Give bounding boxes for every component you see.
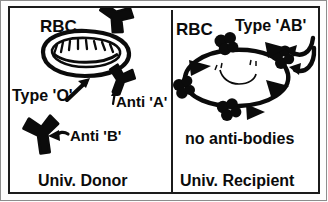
y-shaped-antibody-icon [94, 8, 137, 37]
triangular-spike-antigen-icon [265, 42, 287, 58]
no-antibodies-label: no anti-bodies [185, 131, 294, 147]
triangular-spike-antigen-icon [266, 80, 289, 100]
universal-donor-caption: Univ. Donor [38, 173, 127, 189]
universal-recipient-panel: RBC Type 'AB' no anti-bodies Univ. Recip… [173, 8, 318, 194]
arrow-left-icon [48, 130, 68, 141]
universal-donor-panel: RBC Type 'O' Anti 'A' Anti 'B' Univ. Don… [10, 8, 171, 194]
clover-blob-antigen-icon [173, 76, 195, 99]
antibody-b-label: Anti 'B' [70, 128, 121, 143]
blood-type-label-left: Type 'O' [12, 88, 73, 104]
antibody-a-label: Anti 'A' [116, 94, 167, 109]
triangular-spike-antigen-icon [189, 60, 211, 76]
rbc-label-right: RBC [176, 21, 213, 38]
red-blood-cell-icon [43, 31, 129, 76]
curved-arrow-left-icon [285, 38, 313, 57]
y-shaped-antibody-icon [22, 115, 61, 155]
clover-blob-antigen-icon [215, 32, 239, 55]
clover-blob-antigen-icon [217, 98, 242, 121]
rbc-label-left: RBC [40, 18, 77, 35]
blood-type-label-right: Type 'AB' [235, 18, 306, 34]
blood-type-diagram: RBC Type 'O' Anti 'A' Anti 'B' Univ. Don… [0, 0, 328, 202]
triangular-spike-antigen-icon [246, 104, 265, 120]
red-blood-cell-icon [185, 50, 288, 106]
curved-arrow-left-icon [289, 48, 314, 75]
universal-recipient-caption: Univ. Recipient [180, 173, 294, 189]
clover-blob-antigen-icon [271, 45, 294, 69]
